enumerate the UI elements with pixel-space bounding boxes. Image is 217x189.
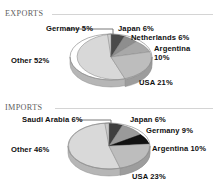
trade-pie-charts-figure: EXPORTS xyxy=(0,0,217,189)
exports-label-usa: USA 21% xyxy=(139,78,173,87)
exports-panel: EXPORTS xyxy=(0,0,217,94)
imports-label-germany: Germany 9% xyxy=(146,126,193,135)
imports-label-saudi-arabia: Saudi Arabia 6% xyxy=(22,115,83,124)
exports-label-netherlands: Netherlands 6% xyxy=(131,33,189,42)
exports-label-japan: Japan 6% xyxy=(118,24,154,33)
imports-label-usa: USA 23% xyxy=(132,172,166,181)
imports-label-other: Other 46% xyxy=(11,145,49,154)
exports-label-argentina: Argentina 10% xyxy=(154,44,198,62)
imports-pie-chart xyxy=(0,94,217,189)
imports-pie-slices xyxy=(68,123,149,169)
imports-label-argentina: Argentina 10% xyxy=(152,144,206,153)
exports-label-other: Other 52% xyxy=(11,56,49,65)
exports-label-germany: Germany 5% xyxy=(46,24,93,33)
imports-panel: IMPORTS xyxy=(0,94,217,189)
imports-label-japan: Japan 6% xyxy=(130,115,166,124)
